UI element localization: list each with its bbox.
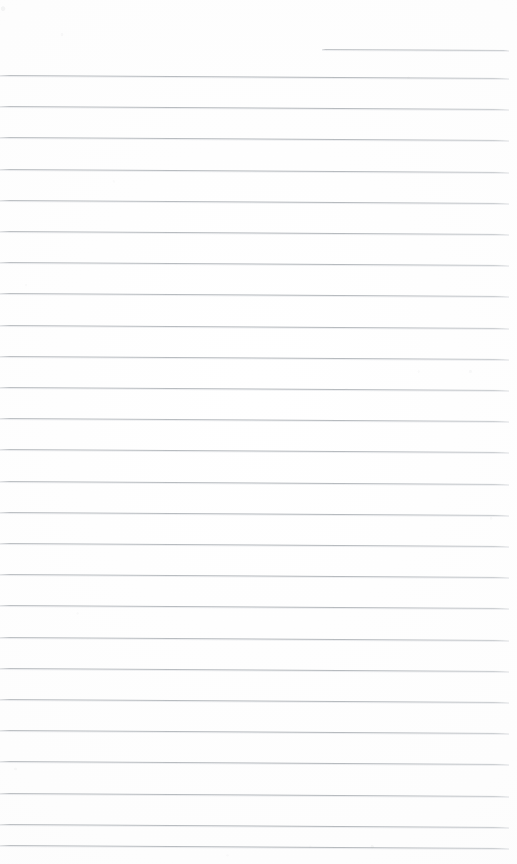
scanned-page: [0, 0, 517, 864]
ruled-line-partial: [322, 49, 509, 51]
